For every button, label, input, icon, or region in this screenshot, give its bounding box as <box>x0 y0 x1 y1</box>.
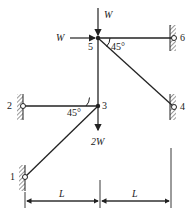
support-1 <box>19 165 28 191</box>
load-label-w-vertical: W <box>104 9 114 20</box>
angle-label-3: 45° <box>67 107 81 118</box>
joint-5 <box>96 36 100 40</box>
load-label-2w: 2W <box>91 136 106 147</box>
node-label-4: 4 <box>180 101 185 112</box>
dimension-label-right: L <box>131 188 138 199</box>
angle-arc-3 <box>86 98 90 107</box>
support-4 <box>170 94 177 120</box>
node-label-3: 3 <box>102 100 107 111</box>
dimension-lines <box>25 148 171 208</box>
node-label-5: 5 <box>88 41 93 52</box>
support-6 <box>170 25 177 51</box>
node-label-6: 6 <box>180 32 185 43</box>
joint-3 <box>96 104 100 108</box>
member-5-4 <box>98 38 174 107</box>
angle-label-5: 45° <box>111 41 125 52</box>
node-label-2: 2 <box>7 100 12 111</box>
angle-arc-5 <box>107 38 111 47</box>
member-1-3 <box>25 106 98 177</box>
node-label-1: 1 <box>10 171 15 182</box>
support-2 <box>17 94 26 120</box>
dimension-label-left: L <box>58 188 65 199</box>
load-label-w-horizontal: W <box>56 32 66 43</box>
truss-diagram: W W 2W 5 3 6 4 2 1 45° 45° L L <box>0 0 195 215</box>
